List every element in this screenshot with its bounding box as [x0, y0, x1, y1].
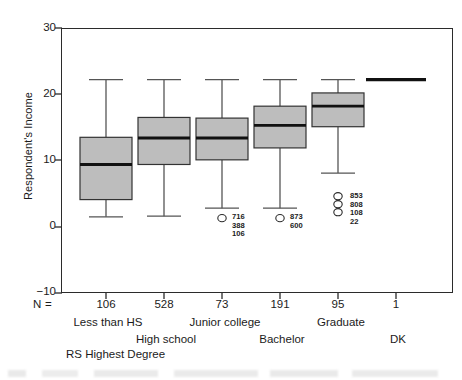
n-value-high-school: 528 — [134, 298, 194, 310]
box-iqr — [254, 106, 306, 148]
box-iqr — [80, 137, 132, 199]
box-group-high-school — [138, 80, 190, 216]
box-iqr — [138, 117, 190, 164]
n-value-junior-college: 73 — [192, 298, 252, 310]
y-axis-ticks — [55, 28, 62, 293]
outlier-marker — [334, 209, 342, 216]
box-group-less-than-hs — [80, 80, 132, 217]
x-category-label-bachelor: Bachelor — [222, 333, 342, 345]
n-value-dk: 1 — [366, 298, 426, 310]
n-value-graduate: 95 — [308, 298, 368, 310]
n-value-less-than-hs: 106 — [76, 298, 136, 310]
box-group-junior-college — [196, 80, 248, 222]
x-axis-title: RS Highest Degree — [66, 348, 165, 360]
outlier-marker — [218, 215, 226, 222]
outlier-label: 22 — [350, 218, 363, 227]
n-prefix-label: N = — [33, 298, 52, 310]
outlier-label: 600 — [290, 222, 303, 231]
chart-figure: Respondent's Income 30 20 10 0 −10 N = 1… — [0, 0, 462, 380]
outlier-marker — [334, 193, 342, 200]
x-category-label-dk: DK — [338, 333, 458, 345]
page-edge-artifact — [8, 370, 454, 377]
x-category-label-graduate: Graduate — [281, 316, 401, 328]
box-group-bachelor — [254, 80, 306, 222]
outlier-labels-graduate: 853 808 108 22 — [350, 192, 363, 226]
outlier-label: 106 — [232, 230, 245, 239]
x-category-label-junior-college: Junior college — [165, 316, 285, 328]
outlier-marker — [334, 201, 342, 208]
x-category-label-high-school: High school — [106, 333, 226, 345]
outlier-labels-bachelor: 873 600 — [290, 213, 303, 230]
outlier-marker — [276, 215, 284, 222]
n-value-bachelor: 191 — [250, 298, 310, 310]
x-category-label-less-than-hs: Less than HS — [48, 316, 168, 328]
box-series — [80, 80, 426, 222]
outlier-labels-junior-college: 716 388 106 — [232, 213, 245, 239]
box-iqr — [312, 93, 364, 127]
